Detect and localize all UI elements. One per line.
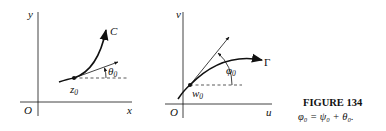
tangent-vector-right: [190, 37, 229, 85]
right-panel: v O u Γ φ0 w0: [165, 8, 272, 118]
left-origin-label: O: [24, 104, 32, 116]
left-panel: y O x C θ0 z0: [20, 8, 132, 116]
curve-c: [59, 30, 106, 82]
left-y-axis-label: y: [27, 8, 33, 20]
caption-equation: φ₀ = ψ₀ + θ₀.: [298, 111, 354, 122]
curve-gamma: [178, 58, 262, 99]
caption: FIGURE 134 φ₀ = ψ₀ + θ₀.: [298, 97, 363, 122]
point-z0-label: z0: [69, 83, 78, 97]
point-z0: [72, 76, 76, 80]
theta-angle-arc: [105, 68, 107, 78]
point-w0-label: w0: [192, 87, 203, 101]
figure: y O x C θ0 z0 v O u Γ φ0 w0 FIGURE 134 φ…: [0, 0, 386, 131]
theta-label: θ0: [108, 65, 117, 79]
right-v-axis-label: v: [176, 8, 181, 20]
curve-c-label: C: [110, 25, 118, 37]
right-u-axis-label: u: [266, 106, 272, 118]
right-origin-label: O: [170, 106, 178, 118]
left-x-axis-label: x: [126, 104, 132, 116]
curve-gamma-label: Γ: [264, 56, 270, 68]
caption-title: FIGURE 134: [303, 97, 363, 108]
phi-label: φ0: [226, 64, 236, 78]
